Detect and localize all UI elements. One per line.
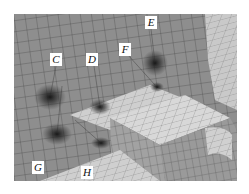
- label-f: F: [119, 43, 131, 56]
- label-g: G: [32, 161, 44, 174]
- label-e: E: [145, 16, 157, 29]
- label-h: H: [81, 166, 93, 179]
- mesh-illustration: [14, 14, 237, 181]
- hotspot-f: [150, 82, 164, 92]
- label-d: D: [86, 53, 98, 66]
- label-c: C: [50, 53, 62, 66]
- fe-mesh-figure: C D E F G H: [14, 14, 237, 181]
